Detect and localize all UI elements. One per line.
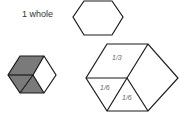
fraction-diagram (0, 0, 179, 125)
fraction-label-third: 1/3 (112, 54, 122, 61)
whole-hexagon (73, 1, 123, 35)
shaded-hexagon (8, 56, 56, 93)
fraction-label-sixth-bottom: 1/6 (122, 94, 132, 101)
labeled-hexagon (86, 44, 178, 111)
fraction-label-sixth-left: 1/6 (100, 84, 110, 91)
